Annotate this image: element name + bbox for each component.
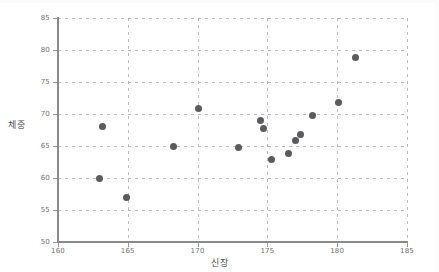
y-axis-tick-label: 65 [41,142,50,150]
data-point [297,131,304,138]
page-edge-top [0,0,439,3]
scatter-plot-figure: 체중 신장 1601651701751801855055606570758085 [0,0,439,272]
data-point [292,137,299,144]
gridline-y [58,146,407,147]
y-axis-tick [53,18,57,19]
gridline-y [58,82,407,83]
y-axis-tick-label: 50 [41,238,50,246]
gridline-x [267,18,268,242]
x-axis-tick-label: 185 [400,247,414,255]
data-point [268,156,275,163]
y-axis-tick-label: 85 [41,14,50,22]
gridline-x [407,18,408,242]
y-axis-tick-label: 60 [41,174,50,182]
gridline-y [58,114,407,115]
y-axis-tick [53,146,57,147]
x-axis-tick-label: 165 [121,247,135,255]
y-axis-tick [53,210,57,211]
gridline-y [58,210,407,211]
data-point [99,123,106,130]
gridline-x [128,18,129,242]
data-point [96,175,103,182]
plot-area [58,18,407,242]
y-axis-tick [53,82,57,83]
x-axis-line [57,241,408,243]
data-point [123,194,130,201]
x-axis-tick-label: 170 [191,247,205,255]
y-axis-tick-label: 75 [41,78,50,86]
gridline-y [58,178,407,179]
page-edge-right [435,0,439,272]
y-axis-tick [53,178,57,179]
gridline-y [58,50,407,51]
y-axis-title: 체중 [8,118,25,131]
y-axis-tick-label: 55 [41,206,50,214]
data-point [335,99,342,106]
y-axis-tick [53,50,57,51]
data-point [170,143,177,150]
data-point [195,105,202,112]
y-axis-tick-label: 80 [41,46,50,54]
x-axis-tick-label: 180 [330,247,344,255]
data-point [285,150,292,157]
y-axis-tick [53,242,57,243]
data-point [235,144,242,151]
gridline-y [58,18,407,19]
gridline-x [198,18,199,242]
x-axis-tick-label: 175 [260,247,274,255]
y-axis-tick-label: 70 [41,110,50,118]
x-axis-tick-label: 160 [51,247,65,255]
x-axis-title: 신장 [0,256,439,269]
data-point [309,112,316,119]
data-point [257,117,264,124]
y-axis-line [57,17,59,243]
gridline-x [337,18,338,242]
data-point [352,54,359,61]
data-point [260,125,267,132]
y-axis-tick [53,114,57,115]
